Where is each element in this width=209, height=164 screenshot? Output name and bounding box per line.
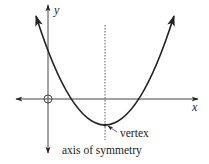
- vertex-point: [103, 123, 106, 126]
- parabola-diagram: y x vertex axis of symmetry: [0, 0, 209, 164]
- x-axis-label: x: [191, 100, 198, 114]
- vertex-pointer-arrow: [108, 126, 117, 132]
- axis-of-symmetry-label: axis of symmetry: [62, 144, 142, 157]
- y-axis-label: y: [53, 3, 60, 17]
- vertex-label: vertex: [120, 127, 149, 139]
